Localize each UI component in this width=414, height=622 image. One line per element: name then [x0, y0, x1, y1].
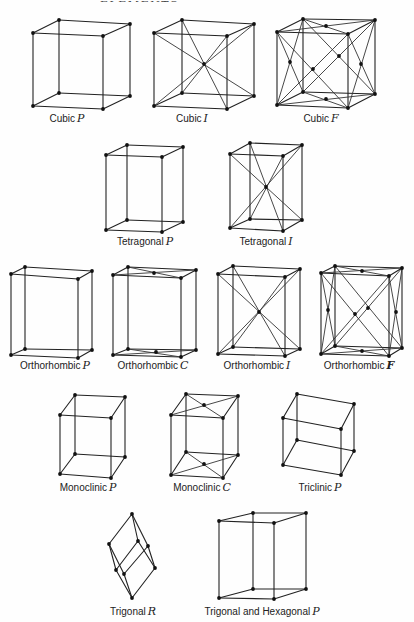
cell-edge: [283, 418, 341, 429]
lattice-centering-symbol: I: [204, 112, 208, 125]
lattice-point: [281, 154, 285, 158]
lattice-point: [387, 274, 391, 278]
lattice-point: [114, 568, 118, 572]
lattice-point: [221, 476, 225, 480]
lattice-point: [301, 90, 305, 94]
lattice-point: [339, 473, 343, 477]
lattice-point: [126, 265, 130, 269]
cell-edge: [106, 155, 162, 157]
cell-edge: [11, 355, 78, 358]
lattice-point: [264, 185, 268, 189]
cell-edge: [277, 105, 348, 108]
cell-edge: [233, 266, 300, 269]
cell-edge: [124, 546, 148, 574]
lattice-tetragonal-p: [104, 143, 185, 234]
lattice-cubic-i: [152, 18, 256, 111]
cell-edge: [218, 266, 233, 274]
cell-edge: [186, 394, 238, 396]
lattice-point: [300, 218, 304, 222]
lattice-point: [236, 453, 240, 457]
lattice-point: [31, 104, 35, 108]
cell-edge: [297, 394, 354, 404]
lattice-point: [109, 416, 113, 420]
lattice-point: [281, 416, 285, 420]
lattice-system-name: Trigonal: [110, 606, 146, 617]
lattice-point: [169, 413, 173, 417]
lattice-centering-symbol: I: [288, 235, 292, 248]
cell-edge: [297, 440, 354, 451]
cell-edge: [219, 513, 253, 521]
lattice-point: [125, 143, 129, 147]
cell-edge: [283, 465, 341, 475]
lattice-diagram-canvas: [0, 0, 414, 622]
lattice-label-trigonal-r: TrigonalR: [110, 606, 156, 618]
cell-edge: [60, 474, 111, 478]
lattice-point: [231, 345, 235, 349]
lattice-cubic-p: [31, 18, 132, 111]
cell-edge: [283, 394, 297, 418]
lattice-point: [125, 218, 129, 222]
lattice-point: [101, 34, 105, 38]
lattice-point: [352, 402, 356, 406]
cell-edge: [59, 20, 130, 24]
lattice-point: [387, 354, 391, 358]
lattice-point: [152, 31, 156, 35]
lattice-label-tetragonal-p: TetragonalP: [117, 236, 173, 248]
lattice-point: [353, 312, 357, 316]
lattice-point: [248, 141, 252, 145]
lattice-point: [111, 273, 115, 277]
cell-edge: [11, 349, 25, 355]
lattice-point: [217, 519, 221, 523]
lattice-point: [373, 18, 377, 22]
cell-edge: [111, 457, 125, 478]
lattice-point: [257, 310, 261, 314]
lattice-point: [251, 511, 255, 515]
cell-edge: [283, 145, 302, 156]
cell-edge: [33, 93, 59, 106]
lattice-point: [225, 107, 229, 111]
lattice-point: [311, 67, 315, 71]
cell-edge: [274, 513, 306, 523]
cell-edge: [60, 454, 75, 474]
lattice-point: [283, 354, 287, 358]
lattice-label-orthorhombic-i: OrthorhombicI: [224, 360, 291, 372]
lattice-point: [31, 31, 35, 35]
cell-edge: [303, 92, 375, 94]
lattice-centering-symbol: P: [83, 359, 90, 372]
cell-edge: [218, 354, 285, 356]
cell-edge: [186, 452, 238, 455]
lattice-point: [324, 24, 328, 28]
lattice-point: [104, 153, 108, 157]
cell-edge: [277, 92, 303, 105]
lattice-system-name: Trigonal and Hexagonal: [204, 606, 310, 617]
cell-edge: [341, 451, 354, 475]
lattice-point: [360, 269, 364, 273]
lattice-monoclinic-p: [58, 393, 127, 480]
lattice-point: [217, 596, 221, 600]
cell-edge: [75, 454, 125, 457]
lattice-point: [231, 264, 235, 268]
lattice-point: [339, 427, 343, 431]
lattice-point: [90, 269, 94, 273]
lattice-point: [304, 511, 308, 515]
cell-edge: [127, 145, 183, 147]
cell-edge: [389, 268, 402, 276]
cell-edge: [111, 397, 125, 418]
cell-edge: [132, 514, 138, 541]
lattice-point: [272, 521, 276, 525]
lattice-point: [180, 18, 184, 22]
cell-edge: [116, 541, 138, 570]
lattice-point: [228, 226, 232, 230]
lattice-label-orthorhombic-f: OrthorhombicF: [324, 360, 394, 372]
lattice-point: [104, 228, 108, 232]
lattice-point: [298, 267, 302, 271]
lattice-point: [194, 348, 198, 352]
cell-edge: [230, 143, 250, 154]
lattice-system-name: Orthorhombic: [20, 360, 81, 371]
lattice-point: [136, 539, 140, 543]
cell-edge: [219, 521, 274, 523]
lattice-point: [288, 60, 292, 64]
cell-edge: [103, 24, 130, 36]
lattice-system-name: Orthorhombic: [118, 360, 179, 371]
lattice-system-name: Orthorhombic: [224, 360, 285, 371]
